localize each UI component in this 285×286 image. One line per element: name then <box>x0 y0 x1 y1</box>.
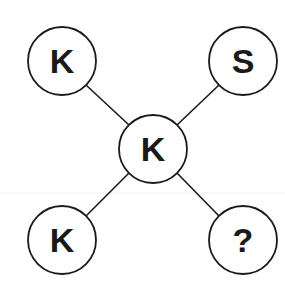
node-label: K <box>50 221 75 259</box>
connector-bottom-left <box>86 173 129 216</box>
diagram-svg: K S K K ? <box>0 0 285 286</box>
node-label: K <box>50 42 75 80</box>
connector-top-left <box>86 85 129 125</box>
connector-bottom-right <box>177 173 219 216</box>
node-bottom-left: K <box>28 206 96 274</box>
node-center: K <box>119 115 187 183</box>
connector-top-right <box>177 85 219 125</box>
question-mark-label: ? <box>233 221 254 259</box>
puzzle-diagram: K S K K ? <box>0 0 285 286</box>
node-top-left: K <box>28 27 96 95</box>
node-label: S <box>232 42 255 80</box>
node-top-right: S <box>209 27 277 95</box>
node-label: K <box>141 130 166 168</box>
node-bottom-right: ? <box>209 206 277 274</box>
